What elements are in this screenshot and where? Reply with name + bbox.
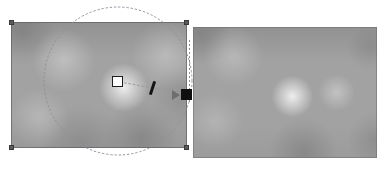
source-image-panel[interactable]: [11, 22, 187, 148]
resize-handle-bottom-left[interactable]: [9, 145, 14, 150]
resize-handle-top-right[interactable]: [184, 20, 189, 25]
edge-node-handle[interactable]: [181, 89, 192, 100]
drag-arrow-icon[interactable]: [172, 90, 180, 100]
result-image-panel[interactable]: [193, 27, 377, 158]
center-marker[interactable]: [112, 76, 123, 87]
result-image-content: [193, 27, 377, 158]
resize-handle-top-left[interactable]: [9, 20, 14, 25]
source-image-content: [11, 22, 187, 148]
resize-handle-bottom-right[interactable]: [184, 145, 189, 150]
screenshot-stage: [0, 0, 383, 169]
